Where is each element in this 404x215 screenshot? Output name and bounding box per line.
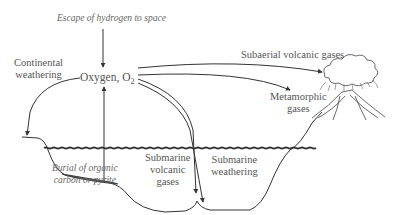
subaerial-arrow xyxy=(138,64,322,72)
burial-label: Burial of organic carbon or pyrite xyxy=(52,162,118,186)
escape-label: Escape of hydrogen to space xyxy=(57,12,166,24)
submarine-weathering-label: Submarine weathering xyxy=(211,154,258,178)
water-surface xyxy=(44,147,316,148)
continental-line-1: Continental xyxy=(14,57,63,69)
sub-weath-line-1: Submarine xyxy=(211,154,258,166)
oxygen-label: Oxygen, O2 xyxy=(80,71,134,88)
submarine-volcanic-label: Submarine volcanic gases xyxy=(145,152,191,188)
sub-volc-line-3: gases xyxy=(145,176,191,188)
continental-weathering-arrow xyxy=(27,78,80,135)
burial-line-1: Burial of organic xyxy=(52,162,118,174)
oxygen-text: Oxygen, O xyxy=(80,71,130,83)
metamorphic-label: Metamorphic gases xyxy=(270,91,327,115)
subaerial-label: Subaerial volcanic gases xyxy=(241,49,344,61)
metamorphic-line-1: Metamorphic xyxy=(270,91,327,103)
metamorphic-line-2: gases xyxy=(270,103,327,115)
sub-weath-line-2: weathering xyxy=(211,166,258,178)
continental-line-2: weathering xyxy=(14,69,63,81)
metamorphic-arrow xyxy=(138,74,290,90)
sub-volc-line-1: Submarine xyxy=(145,152,191,164)
burial-line-2: carbon or pyrite xyxy=(52,174,118,186)
continental-weathering-label: Continental weathering xyxy=(14,57,63,81)
sub-volc-line-2: volcanic xyxy=(145,164,191,176)
oxygen-subscript: 2 xyxy=(130,77,134,86)
